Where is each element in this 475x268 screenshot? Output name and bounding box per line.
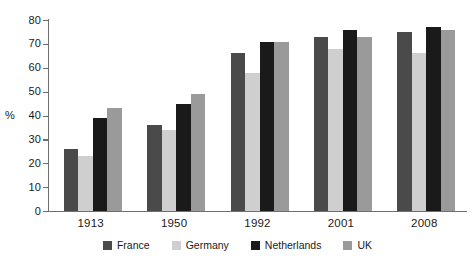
legend-item: Germany bbox=[172, 240, 229, 251]
x-axis-line bbox=[48, 211, 467, 212]
bar-group bbox=[314, 20, 372, 211]
bar bbox=[397, 32, 412, 211]
bar-group bbox=[64, 20, 122, 211]
y-axis-tick-label: 70 bbox=[3, 38, 41, 49]
y-axis-tick-label: 10 bbox=[3, 182, 41, 193]
bar bbox=[64, 149, 79, 211]
legend-item: Netherlands bbox=[251, 240, 322, 251]
x-axis-tick-label: 2008 bbox=[383, 217, 466, 230]
bar bbox=[93, 118, 108, 211]
bar bbox=[343, 30, 358, 211]
x-axis-tick-label: 1950 bbox=[132, 217, 215, 230]
bar bbox=[162, 130, 177, 211]
y-axis-tick-label: 20 bbox=[3, 158, 41, 169]
legend-swatch-icon bbox=[343, 241, 352, 250]
bar bbox=[107, 108, 122, 211]
bar-group bbox=[397, 20, 455, 211]
bar bbox=[176, 104, 191, 211]
bar-chart: %01020304050607080 19131950199220012008 … bbox=[0, 0, 475, 268]
legend-swatch-icon bbox=[251, 241, 260, 250]
bar bbox=[78, 156, 93, 211]
x-axis-tick-label: 1913 bbox=[49, 217, 132, 230]
bar bbox=[245, 73, 260, 211]
bar bbox=[328, 49, 343, 211]
bar bbox=[191, 94, 206, 211]
legend-label: Netherlands bbox=[265, 240, 322, 251]
y-axis-tick-label: 50 bbox=[3, 86, 41, 97]
legend-swatch-icon bbox=[172, 241, 181, 250]
y-axis-tick-label: 40 bbox=[3, 110, 41, 121]
bar-group bbox=[231, 20, 289, 211]
bar bbox=[357, 37, 372, 211]
bar bbox=[231, 53, 246, 211]
legend-label: UK bbox=[357, 240, 372, 251]
legend-swatch-icon bbox=[103, 241, 112, 250]
legend-item: France bbox=[103, 240, 150, 251]
y-axis-tick bbox=[43, 211, 49, 212]
y-axis-tick-label: 60 bbox=[3, 62, 41, 73]
y-axis-tick-label: 30 bbox=[3, 134, 41, 145]
plot-area bbox=[49, 20, 466, 211]
legend-label: France bbox=[117, 240, 150, 251]
bar bbox=[260, 42, 275, 212]
legend-label: Germany bbox=[186, 240, 229, 251]
chart-legend: FranceGermanyNetherlandsUK bbox=[0, 240, 475, 251]
legend-item: UK bbox=[343, 240, 372, 251]
x-axis-tick-label: 1992 bbox=[216, 217, 299, 230]
bar bbox=[314, 37, 329, 211]
bar bbox=[412, 53, 427, 211]
bar bbox=[147, 125, 162, 211]
y-axis-tick-label: 0 bbox=[3, 206, 41, 217]
bar-group bbox=[147, 20, 205, 211]
x-axis-tick-label: 2001 bbox=[299, 217, 382, 230]
y-axis-tick-label: 80 bbox=[3, 15, 41, 26]
bar bbox=[274, 42, 289, 212]
bar bbox=[426, 27, 441, 211]
bar bbox=[441, 30, 456, 211]
